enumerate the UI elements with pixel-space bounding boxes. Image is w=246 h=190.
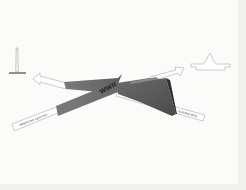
capitol-icon <box>191 53 230 70</box>
diagram-canvas: AMERICAN CENTURY EISENHOWER <box>0 0 246 190</box>
obelisk-icon <box>9 48 26 74</box>
memorial-diagram: AMERICAN CENTURY EISENHOWER <box>0 0 246 190</box>
arrow-left-to-monument <box>33 73 66 89</box>
